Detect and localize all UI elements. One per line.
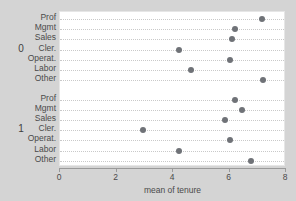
row-gridline — [60, 80, 284, 81]
dot-plot-chart: 01 ProfMgmtSalesCler.Operat.LaborOtherPr… — [0, 0, 296, 201]
data-point — [176, 148, 182, 154]
data-point — [248, 158, 254, 164]
category-label: Sales — [0, 33, 56, 42]
row-gridline — [60, 60, 284, 61]
data-point — [227, 137, 233, 143]
row-gridline — [60, 50, 284, 51]
data-point — [239, 107, 245, 113]
row-gridline — [60, 70, 284, 71]
plot-data-area — [60, 12, 284, 165]
row-gridline — [60, 110, 284, 111]
x-axis-tick-label: 0 — [49, 172, 69, 182]
category-label: Other — [0, 74, 56, 83]
data-point — [188, 67, 194, 73]
category-label: Labor — [0, 64, 56, 73]
x-axis-tick-label: 6 — [219, 172, 239, 182]
category-label: Cler. — [0, 44, 56, 53]
row-gridline — [60, 29, 284, 30]
row-gridline — [60, 19, 284, 20]
category-label: Sales — [0, 114, 56, 123]
row-gridline — [60, 151, 284, 152]
row-gridline — [60, 140, 284, 141]
category-label: Prof — [0, 13, 56, 22]
category-label-column: ProfMgmtSalesCler.Operat.LaborOtherProfM… — [0, 11, 56, 166]
category-label: Prof — [0, 94, 56, 103]
data-point — [232, 97, 238, 103]
row-gridline — [60, 130, 284, 131]
data-point — [229, 36, 235, 42]
data-point — [232, 26, 238, 32]
row-gridline — [60, 120, 284, 121]
category-label: Operat. — [0, 134, 56, 143]
data-point — [227, 57, 233, 63]
row-gridline — [60, 100, 284, 101]
x-axis-tick-label: 2 — [106, 172, 126, 182]
category-label: Mgmt — [0, 23, 56, 32]
data-point — [176, 47, 182, 53]
data-point — [259, 16, 265, 22]
row-gridline — [60, 39, 284, 40]
category-label: Cler. — [0, 124, 56, 133]
category-label: Labor — [0, 145, 56, 154]
category-label: Operat. — [0, 54, 56, 63]
data-point — [260, 77, 266, 83]
data-point — [222, 117, 228, 123]
category-label: Other — [0, 155, 56, 164]
x-axis-title: mean of tenure — [59, 185, 286, 195]
plot-panel — [59, 11, 285, 166]
x-axis-tick-label: 8 — [275, 172, 295, 182]
x-axis-tick-label: 4 — [162, 172, 182, 182]
data-point — [140, 127, 146, 133]
category-label: Mgmt — [0, 104, 56, 113]
